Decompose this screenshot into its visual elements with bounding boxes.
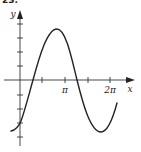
y-axis-label: y	[9, 9, 16, 19]
y-axis-arrow-icon	[17, 10, 23, 19]
sinusoid-curve	[11, 29, 117, 132]
problem-number: 23.	[2, 0, 18, 5]
x-axis-label: x	[127, 84, 132, 94]
x-tick-label-2pi: 2π	[103, 85, 117, 95]
x-axis	[4, 77, 135, 83]
x-tick-label-pi: π	[61, 85, 69, 95]
x-axis-arrow-icon	[126, 77, 135, 83]
function-graph: 23. π 2π x y	[0, 0, 141, 152]
